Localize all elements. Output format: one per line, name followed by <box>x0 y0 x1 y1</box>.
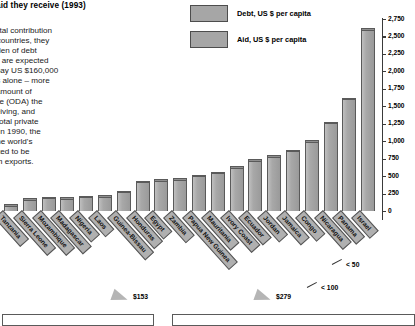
y-axis-tick-mark <box>382 159 386 160</box>
bar-cap <box>117 191 131 194</box>
y-axis-tick-mark <box>382 71 386 72</box>
y-axis-tick-label: 2,750 <box>388 15 405 22</box>
y-axis-tick-label: 250 <box>388 189 399 196</box>
bar-cap <box>136 181 150 184</box>
bar-cap <box>211 172 225 175</box>
bar-cap <box>192 175 206 178</box>
y-axis-tick-mark <box>382 176 386 177</box>
bar-cap <box>79 196 93 199</box>
bar-fill <box>230 166 244 211</box>
bar-ecuador[interactable] <box>248 159 262 211</box>
y-axis-tick-label: 500 <box>388 172 399 179</box>
y-axis-tick-label: 1,500 <box>388 102 405 109</box>
bar-fill <box>211 172 225 211</box>
bottom-panel-left <box>2 314 154 326</box>
bar-congo[interactable] <box>305 140 319 211</box>
annotation-153: $153 <box>133 293 148 300</box>
bar-fill <box>192 175 206 211</box>
annotation-100: < 100 <box>321 284 338 291</box>
bar-fill <box>136 181 150 211</box>
y-axis-tick-mark <box>382 194 386 195</box>
y-axis-tick-mark <box>382 124 386 125</box>
y-axis-tick-mark <box>382 54 386 55</box>
bar-fill <box>342 98 356 211</box>
bar-cap <box>173 178 187 181</box>
bar-ivory-coast[interactable] <box>230 166 244 211</box>
y-axis-tick-mark <box>382 106 386 107</box>
bar-fill <box>324 122 338 211</box>
y-axis-tick-mark <box>382 141 386 142</box>
bar-fill <box>154 179 168 211</box>
y-axis-tick-label: 750 <box>388 154 399 161</box>
annotation-279: $279 <box>276 293 291 300</box>
bar-fill <box>173 178 187 211</box>
bar-israel[interactable] <box>361 28 375 211</box>
chart-plot-area: 02505007501,0001,2501,5001,7502,0002,250… <box>0 0 415 300</box>
bar-cap <box>60 197 74 200</box>
bar-cap <box>23 198 37 201</box>
y-axis: 02505007501,0001,2501,5001,7502,0002,250… <box>382 10 415 220</box>
bar-papua-new-guinea[interactable] <box>192 175 206 211</box>
y-axis-tick-label: 1,750 <box>388 84 405 91</box>
bar-mauritania[interactable] <box>211 172 225 211</box>
bar-zambia[interactable] <box>173 178 187 211</box>
bar-cap <box>324 122 338 125</box>
bar-fill <box>267 155 281 211</box>
y-axis-spine <box>382 18 383 220</box>
bottom-panel-right <box>172 314 415 326</box>
bar-cap <box>286 150 300 153</box>
bar-honduras[interactable] <box>136 181 150 211</box>
y-axis-tick-label: 2,250 <box>388 49 405 56</box>
bar-nicaragua[interactable] <box>324 122 338 211</box>
y-axis-tick-label: 2,000 <box>388 67 405 74</box>
bar-cap <box>342 98 356 101</box>
bar-series-debt <box>0 0 415 211</box>
bar-cap <box>248 159 262 162</box>
annotation-50: < 50 <box>346 261 359 268</box>
bar-jamaica[interactable] <box>286 150 300 211</box>
y-axis-tick-mark <box>382 89 386 90</box>
bar-cap <box>230 166 244 169</box>
bar-cap <box>305 140 319 143</box>
bar-jordan[interactable] <box>267 155 281 211</box>
bar-fill <box>361 28 375 211</box>
bar-cap <box>267 155 281 158</box>
bar-fill <box>305 140 319 211</box>
bar-panama[interactable] <box>342 98 356 211</box>
y-axis-tick-label: 1,250 <box>388 119 405 126</box>
y-axis-tick-label: 2,500 <box>388 32 405 39</box>
bar-cap <box>154 179 168 182</box>
y-axis-tick-mark <box>382 36 386 37</box>
bar-cap <box>98 195 112 198</box>
y-axis-tick-mark <box>382 19 386 20</box>
y-axis-tick-label: 1,000 <box>388 137 405 144</box>
bar-fill <box>248 159 262 211</box>
bar-fill <box>286 150 300 211</box>
bar-cap <box>4 204 18 207</box>
bar-egypt[interactable] <box>154 179 168 211</box>
bar-cap <box>42 197 56 200</box>
bar-cap <box>361 28 375 31</box>
